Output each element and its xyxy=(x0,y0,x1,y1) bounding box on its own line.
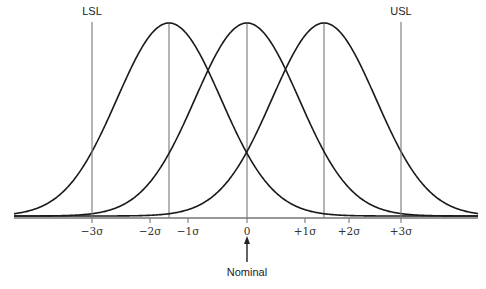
curve-2 xyxy=(14,23,478,216)
curve-0 xyxy=(14,23,478,216)
normal-curves xyxy=(14,23,478,216)
tick-label: +2σ xyxy=(338,225,361,237)
usl-label: USL xyxy=(390,5,411,17)
tick-label: +3σ xyxy=(390,225,413,237)
arrow-up-icon xyxy=(244,236,250,244)
tick-label: −3σ xyxy=(81,225,104,237)
curve-1 xyxy=(14,23,478,216)
nominal-arrow xyxy=(244,236,250,262)
tick-label: −2σ xyxy=(139,225,162,237)
center-lines xyxy=(169,23,324,218)
tick-label: +1σ xyxy=(294,225,317,237)
process-shift-diagram: −3σ−2σ−1σ0+1σ+2σ+3σ LSL USL Nominal xyxy=(0,0,486,289)
axis-ticks: −3σ−2σ−1σ0+1σ+2σ+3σ xyxy=(81,218,413,237)
tick-label: −1σ xyxy=(177,225,200,237)
tick-label: 0 xyxy=(244,225,251,237)
lsl-label: LSL xyxy=(82,5,102,17)
nominal-label: Nominal xyxy=(227,266,267,278)
